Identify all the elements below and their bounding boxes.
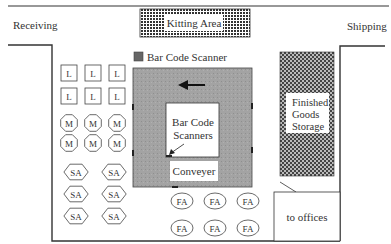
station-fa: FA xyxy=(204,193,226,209)
finished-goods-storage: Finished Goods Storage xyxy=(280,52,334,176)
station-m: M xyxy=(85,135,102,152)
station-sa: SA xyxy=(64,186,88,202)
offices-label: to offices xyxy=(286,211,327,223)
scanner-marker xyxy=(251,147,253,153)
station-sa-label: SA xyxy=(108,190,120,200)
station-l: L xyxy=(85,65,101,81)
station-fa: FA xyxy=(171,220,193,236)
station-l-label: L xyxy=(114,92,120,102)
station-sa: SA xyxy=(64,164,88,180)
scanner-marker xyxy=(251,103,253,109)
station-fa: FA xyxy=(237,220,259,236)
station-m: M xyxy=(61,115,78,132)
scanner-marker xyxy=(166,155,172,157)
scanners-label-line2: Scanners xyxy=(173,129,213,141)
station-m-label: M xyxy=(65,139,73,149)
station-sa-label: SA xyxy=(108,168,120,178)
station-sa-label: SA xyxy=(70,212,82,222)
station-m: M xyxy=(61,135,78,152)
station-l: L xyxy=(61,65,77,81)
station-sa-label: SA xyxy=(70,168,82,178)
conveyer-label: Conveyer xyxy=(173,165,216,177)
scanner-marker xyxy=(132,150,134,156)
station-sa: SA xyxy=(102,208,126,224)
station-l: L xyxy=(85,88,101,104)
right-wall xyxy=(340,46,385,241)
station-m: M xyxy=(109,115,126,132)
station-fa-label: FA xyxy=(177,197,188,207)
station-fa-label: FA xyxy=(210,224,221,234)
station-sa: SA xyxy=(64,208,88,224)
station-l-label: L xyxy=(66,69,72,79)
station-l: L xyxy=(61,88,77,104)
facility-layout-diagram: Kitting Area Receiving Shipping Bar Code… xyxy=(0,0,391,244)
scanner-marker xyxy=(172,186,178,188)
station-m-label: M xyxy=(113,139,121,149)
finished-goods-label-line2: Goods xyxy=(292,109,319,120)
bar-code-scanner-legend-label: Bar Code Scanner xyxy=(147,51,227,63)
station-fa-label: FA xyxy=(177,224,188,234)
station-sa-label: SA xyxy=(108,212,120,222)
station-l-label: L xyxy=(90,92,96,102)
bar-code-scanner-legend-swatch xyxy=(134,52,143,61)
kitting-area: Kitting Area xyxy=(140,9,250,37)
station-m-label: M xyxy=(113,119,121,129)
station-m-label: M xyxy=(65,119,73,129)
door-swing xyxy=(280,182,296,192)
conveyor: Bar Code Scanners Conveyer xyxy=(132,68,253,188)
station-fa: FA xyxy=(171,193,193,209)
station-sa: SA xyxy=(102,164,126,180)
station-sa: SA xyxy=(102,186,126,202)
scanner-marker xyxy=(132,104,134,110)
station-l-label: L xyxy=(114,69,120,79)
finished-goods-label-line1: Finished xyxy=(292,97,329,108)
shipping-label: Shipping xyxy=(347,20,387,32)
station-l: L xyxy=(109,88,125,104)
station-sa-label: SA xyxy=(70,190,82,200)
station-fa-label: FA xyxy=(210,197,221,207)
kitting-area-label: Kitting Area xyxy=(167,17,222,29)
station-m: M xyxy=(85,115,102,132)
station-fa: FA xyxy=(237,193,259,209)
scanners-label-line1: Bar Code xyxy=(172,116,214,128)
finished-goods-label-line3: Storage xyxy=(292,121,324,132)
offices-area[interactable]: to offices xyxy=(274,182,340,241)
station-m: M xyxy=(109,135,126,152)
station-l: L xyxy=(109,65,125,81)
station-fa-label: FA xyxy=(243,197,254,207)
station-fa: FA xyxy=(204,220,226,236)
station-m-label: M xyxy=(89,119,97,129)
station-m-label: M xyxy=(89,139,97,149)
station-fa-label: FA xyxy=(243,224,254,234)
station-l-label: L xyxy=(90,69,96,79)
station-l-label: L xyxy=(66,92,72,102)
receiving-label: Receiving xyxy=(13,19,58,31)
